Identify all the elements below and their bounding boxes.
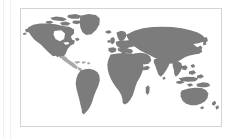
map-surface[interactable] [21, 9, 221, 126]
panel-guide-rule-inner [10, 0, 11, 139]
panel-guide-rule-outer [3, 0, 4, 139]
world-map-panel [0, 0, 235, 139]
world-map-graphic[interactable] [21, 9, 221, 126]
map-frame[interactable] [20, 8, 222, 127]
